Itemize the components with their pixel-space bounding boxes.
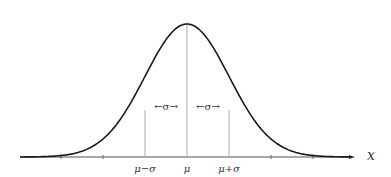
bell-curve xyxy=(20,24,352,157)
sigma-left-annotation: ←σ→ xyxy=(154,101,178,112)
x-axis-label: x xyxy=(367,147,375,163)
tick-label-mu: μ xyxy=(184,163,191,174)
sigma-right-annotation: ←σ→ xyxy=(196,101,220,112)
sigma-guide-lines xyxy=(145,24,229,157)
normal-distribution-chart: ←σ→ ←σ→ μ−σ μ μ+σ x xyxy=(0,0,391,177)
tick-label-mu-minus-sigma: μ−σ xyxy=(134,163,157,174)
tick-label-mu-plus-sigma: μ+σ xyxy=(218,163,241,174)
